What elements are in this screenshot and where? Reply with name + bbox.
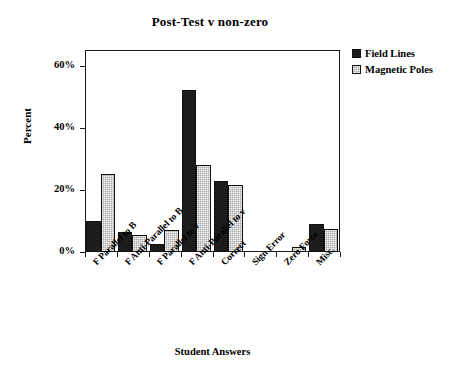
- bar-group: [85, 50, 117, 252]
- legend-label: Field Lines: [365, 48, 415, 59]
- bar-chart: Post-Test v non-zero Percent 0%20%40%60%…: [0, 0, 464, 373]
- y-tick-label: 40%: [33, 121, 75, 132]
- bar-group: [181, 50, 213, 252]
- legend-label: Magnetic Poles: [365, 64, 433, 75]
- x-tick-mark: [117, 252, 118, 257]
- x-tick-mark: [244, 252, 245, 257]
- y-tick-label: 20%: [33, 183, 75, 194]
- legend-item: Magnetic Poles: [352, 64, 464, 75]
- bar: [86, 221, 101, 252]
- bar-group: [308, 50, 340, 252]
- x-tick-mark: [276, 252, 277, 257]
- x-tick-mark: [308, 252, 309, 257]
- bar: [150, 244, 165, 252]
- y-axis-title: Percent: [21, 81, 33, 171]
- x-tick-mark: [213, 252, 214, 257]
- x-tick-mark: [85, 252, 86, 257]
- y-tick-label: 0%: [33, 245, 75, 256]
- x-tick-mark: [340, 252, 341, 257]
- x-axis-title: Student Answers: [85, 346, 340, 357]
- x-tick-mark: [149, 252, 150, 257]
- legend-swatch-icon: [352, 65, 361, 74]
- chart-legend: Field LinesMagnetic Poles: [352, 48, 464, 80]
- legend-swatch-icon: [352, 49, 361, 58]
- bars-layer: [85, 50, 340, 252]
- x-tick-mark: [181, 252, 182, 257]
- legend-item: Field Lines: [352, 48, 464, 59]
- chart-title: Post-Test v non-zero: [0, 14, 420, 30]
- bar-group: [276, 50, 308, 252]
- bar-group: [244, 50, 276, 252]
- y-tick-label: 60%: [33, 59, 75, 70]
